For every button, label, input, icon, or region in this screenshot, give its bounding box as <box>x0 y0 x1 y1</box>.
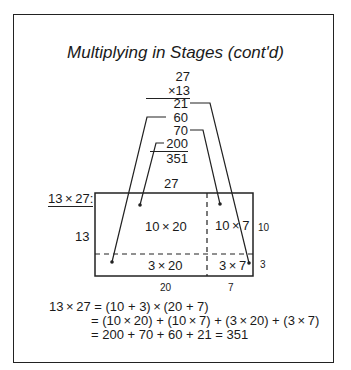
area-top-label: 27 <box>164 176 178 191</box>
area-left-label: 13 <box>75 229 89 244</box>
right-label-3: 3 <box>260 259 266 270</box>
equation-line-3: = 200 + 70 + 60 + 21 = 351 <box>91 327 248 342</box>
cell-bottom-left: 3 × 20 <box>148 258 183 273</box>
area-model-label: 13 × 27: <box>48 191 93 207</box>
equation-line-1: 13 × 27 = (10 + 3) × (20 + 7) <box>49 299 209 314</box>
bottom-label-7: 7 <box>228 282 234 293</box>
cell-top-left: 10 × 20 <box>145 219 187 234</box>
right-label-10: 10 <box>258 222 269 233</box>
cell-top-right: 10 × 7 <box>215 218 250 233</box>
equation-line-2: = (10 × 20) + (10 × 7) + (3 × 20) + (3 ×… <box>91 313 319 328</box>
bottom-label-20: 20 <box>160 282 171 293</box>
cell-bottom-right: 3 × 7 <box>219 258 246 273</box>
